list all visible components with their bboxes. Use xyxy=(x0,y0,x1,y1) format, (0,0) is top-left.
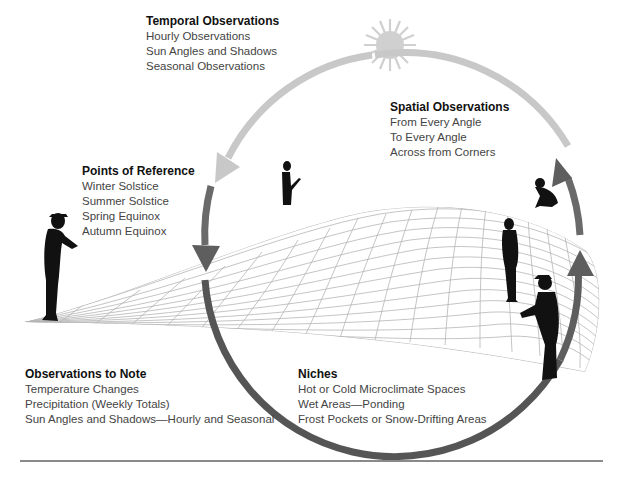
sun-icon xyxy=(364,19,416,71)
temporal-item: Hourly Observations xyxy=(146,29,279,44)
observations-item: Precipitation (Weekly Totals) xyxy=(25,397,274,412)
spatial-item: Across from Corners xyxy=(390,145,509,160)
person-silhouette-left xyxy=(42,213,78,321)
spatial-observations: Spatial Observations From Every Angle To… xyxy=(390,100,509,160)
temporal-observations: Temporal Observations Hourly Observation… xyxy=(146,14,279,74)
cycle-arrow-dark xyxy=(205,186,211,245)
observations-title: Observations to Note xyxy=(25,367,274,382)
reference-title: Points of Reference xyxy=(82,164,195,179)
niches-item: Frost Pockets or Snow-Drifting Areas xyxy=(298,412,487,427)
temporal-item: Sun Angles and Shadows xyxy=(146,44,279,59)
niches-title: Niches xyxy=(298,367,487,382)
observations-item: Temperature Changes xyxy=(25,382,274,397)
reference-item: Summer Solstice xyxy=(82,194,195,209)
temporal-item: Seasonal Observations xyxy=(146,59,279,74)
cycle-arc-right-upper xyxy=(568,178,580,235)
observations-item: Sun Angles and Shadows—Hourly and Season… xyxy=(25,412,274,427)
points-of-reference: Points of Reference Winter Solstice Summ… xyxy=(82,164,195,239)
spatial-title: Spatial Observations xyxy=(390,100,509,115)
bottom-divider xyxy=(20,460,603,462)
person-silhouette-far xyxy=(282,161,301,205)
reference-item: Autumn Equinox xyxy=(82,224,195,239)
niches-item: Hot or Cold Microclimate Spaces xyxy=(298,382,487,397)
reference-item: Spring Equinox xyxy=(82,209,195,224)
niches-item: Wet Areas—Ponding xyxy=(298,397,487,412)
temporal-title: Temporal Observations xyxy=(146,14,279,29)
spatial-item: To Every Angle xyxy=(390,130,509,145)
reference-item: Winter Solstice xyxy=(82,179,195,194)
observations-to-note: Observations to Note Temperature Changes… xyxy=(25,367,274,427)
niches: Niches Hot or Cold Microclimate Spaces W… xyxy=(298,367,487,427)
spatial-item: From Every Angle xyxy=(390,115,509,130)
